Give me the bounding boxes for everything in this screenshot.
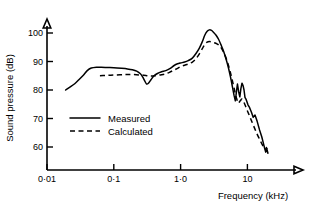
y-tick-label: 80 <box>33 85 43 95</box>
y-axis-ticks: 60708090100 <box>28 28 53 152</box>
x-axis-ticks: 0·010·11·010 <box>38 164 252 184</box>
x-tick-label: 0·01 <box>38 174 56 184</box>
y-tick-label: 60 <box>33 142 43 152</box>
series-line-measured <box>66 30 268 153</box>
x-axis-label: Frequency (kHz) <box>218 190 288 201</box>
y-tick-label: 100 <box>28 28 43 38</box>
plot-series-group <box>66 30 268 153</box>
y-axis-label: Sound pressure (dB) <box>4 54 15 142</box>
legend-label-calculated: Calculated <box>108 126 153 137</box>
y-tick-label: 90 <box>33 57 43 67</box>
legend-label-measured: Measured <box>108 113 150 124</box>
axes-group <box>43 19 303 174</box>
y-tick-label: 70 <box>33 114 43 124</box>
chart-figure: 60708090100 0·010·11·010 Measured Calcul… <box>0 0 317 216</box>
x-tick-label: 0·1 <box>107 174 120 184</box>
x-tick-label: 10 <box>242 174 252 184</box>
sound-pressure-frequency-chart: 60708090100 0·010·11·010 Measured Calcul… <box>0 0 317 216</box>
legend: Measured Calculated <box>70 113 153 137</box>
x-tick-label: 1·0 <box>174 174 187 184</box>
